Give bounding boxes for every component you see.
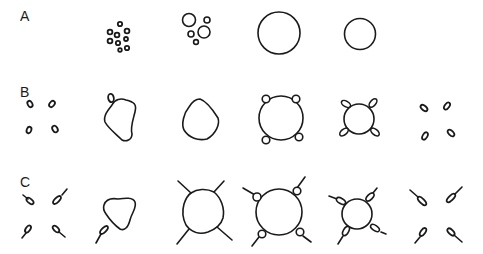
row-b-stage-5-sphere-with-elongated-bodies — [338, 97, 380, 137]
diagram-canvas — [0, 0, 483, 254]
row-c-stage-6-dispersed-tailed-bodies — [410, 187, 462, 243]
row-c-stage-3-sphere-with-rod-projections — [177, 181, 232, 244]
row-a-stage-2-vesicles — [183, 14, 211, 45]
row-c-stage-1-tailed-bodies — [22, 189, 67, 238]
row-b-stage-6-dispersed-elongated-bodies — [419, 101, 455, 140]
row-b-stage-4-sphere-with-round-bodies — [259, 95, 303, 144]
row-a-stage-1-vesicle-cluster — [108, 22, 130, 52]
row-c-stage-2-irregular-body-with-tailed-body — [96, 198, 135, 243]
row-a-stage-4-sphere — [345, 19, 376, 50]
row-a-stage-3-large-sphere — [258, 12, 300, 54]
row-c-stage-5-sphere-with-tailed-elongated-bodies — [329, 188, 386, 244]
row-b-stage-3-irregular-body — [183, 99, 219, 140]
row-b-stage-1-oval-bodies — [26, 100, 59, 134]
row-c-stage-4-sphere-with-tailed-round-bodies — [243, 177, 311, 246]
row-b-stage-2-irregular-body-with-oval — [105, 93, 136, 140]
